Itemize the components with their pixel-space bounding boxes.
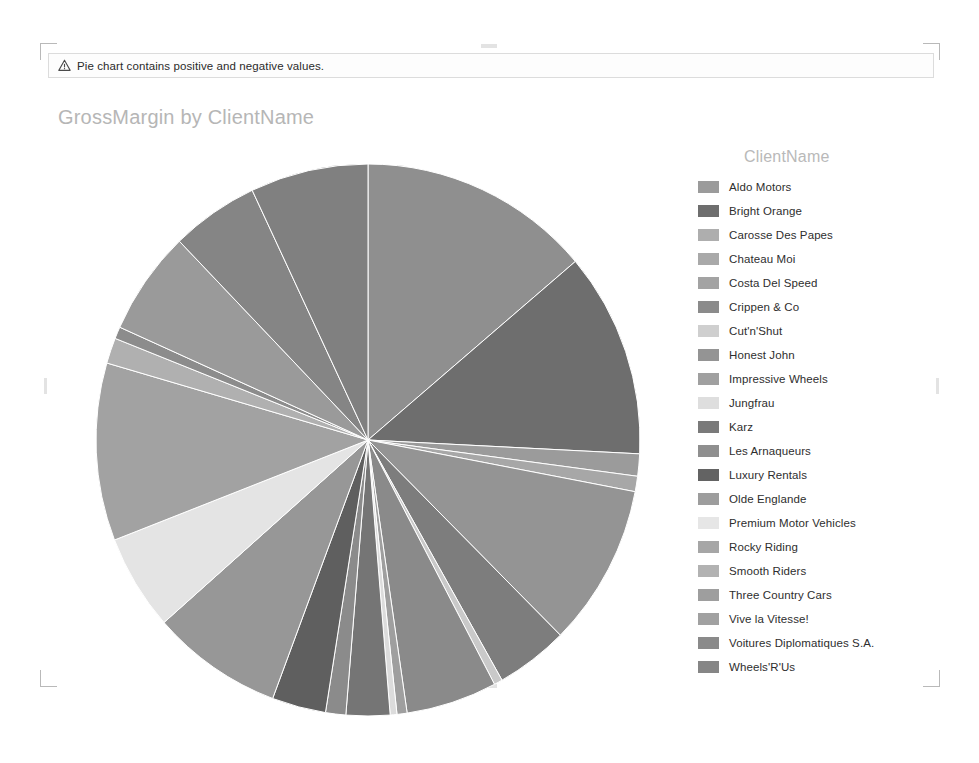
legend-item[interactable]: Carosse Des Papes <box>698 223 948 247</box>
legend-item-label: Wheels'R'Us <box>729 661 795 673</box>
legend-item-label: Premium Motor Vehicles <box>729 517 856 529</box>
legend-item-label: Carosse Des Papes <box>729 229 833 241</box>
legend-swatch <box>698 421 719 433</box>
legend-item[interactable]: Bright Orange <box>698 199 948 223</box>
legend-item-label: Les Arnaqueurs <box>729 445 811 457</box>
legend-swatch <box>698 277 719 289</box>
legend-item-label: Aldo Motors <box>729 181 791 193</box>
legend-swatch <box>698 229 719 241</box>
legend-item[interactable]: Rocky Riding <box>698 535 948 559</box>
legend-item[interactable]: Impressive Wheels <box>698 367 948 391</box>
legend-swatch <box>698 589 719 601</box>
pie-chart[interactable] <box>88 155 658 730</box>
legend-swatch <box>698 349 719 361</box>
legend-swatch <box>698 253 719 265</box>
legend-item-label: Vive la Vitesse! <box>729 613 809 625</box>
legend-item-label: Impressive Wheels <box>729 373 828 385</box>
legend-item[interactable]: Luxury Rentals <box>698 463 948 487</box>
legend-item[interactable]: Jungfrau <box>698 391 948 415</box>
selection-corner-bottom-left[interactable] <box>40 670 57 687</box>
warning-message: Pie chart contains positive and negative… <box>77 60 324 72</box>
legend-swatch <box>698 373 719 385</box>
legend-item-label: Smooth Riders <box>729 565 806 577</box>
legend-item[interactable]: Costa Del Speed <box>698 271 948 295</box>
legend-swatch <box>698 397 719 409</box>
resize-handle-top[interactable] <box>481 44 497 48</box>
legend-item-label: Jungfrau <box>729 397 775 409</box>
legend-item[interactable]: Les Arnaqueurs <box>698 439 948 463</box>
legend-title: ClientName <box>744 148 948 166</box>
pie-slice-group[interactable] <box>96 164 640 716</box>
warning-triangle-icon <box>58 59 71 72</box>
legend[interactable]: ClientName Aldo MotorsBright OrangeCaros… <box>698 148 948 679</box>
legend-swatch <box>698 325 719 337</box>
legend-item[interactable]: Honest John <box>698 343 948 367</box>
pie-chart-svg[interactable] <box>88 155 658 730</box>
legend-swatch <box>698 493 719 505</box>
legend-item-label: Luxury Rentals <box>729 469 807 481</box>
legend-item[interactable]: Wheels'R'Us <box>698 655 948 679</box>
legend-item-label: Honest John <box>729 349 795 361</box>
legend-item-label: Three Country Cars <box>729 589 832 601</box>
page-title: GrossMargin by ClientName <box>58 106 314 129</box>
legend-item-label: Chateau Moi <box>729 253 795 265</box>
legend-item[interactable]: Crippen & Co <box>698 295 948 319</box>
legend-swatch <box>698 661 719 673</box>
legend-item-label: Olde Englande <box>729 493 806 505</box>
legend-item[interactable]: Three Country Cars <box>698 583 948 607</box>
legend-swatch <box>698 181 719 193</box>
resize-handle-left[interactable] <box>44 378 47 394</box>
legend-swatch <box>698 445 719 457</box>
legend-item-label: Rocky Riding <box>729 541 798 553</box>
legend-swatch <box>698 613 719 625</box>
legend-item[interactable]: Karz <box>698 415 948 439</box>
legend-item[interactable]: Premium Motor Vehicles <box>698 511 948 535</box>
legend-item[interactable]: Cut'n'Shut <box>698 319 948 343</box>
legend-swatch <box>698 301 719 313</box>
legend-item[interactable]: Aldo Motors <box>698 175 948 199</box>
warning-banner: Pie chart contains positive and negative… <box>48 53 934 78</box>
legend-item-label: Karz <box>729 421 753 433</box>
legend-item-label: Crippen & Co <box>729 301 799 313</box>
legend-item[interactable]: Smooth Riders <box>698 559 948 583</box>
legend-swatch <box>698 565 719 577</box>
legend-item[interactable]: Chateau Moi <box>698 247 948 271</box>
legend-swatch <box>698 541 719 553</box>
legend-swatch <box>698 469 719 481</box>
legend-swatch <box>698 637 719 649</box>
legend-item-label: Cut'n'Shut <box>729 325 782 337</box>
legend-item-label: Costa Del Speed <box>729 277 817 289</box>
legend-swatch <box>698 205 719 217</box>
legend-swatch <box>698 517 719 529</box>
legend-item[interactable]: Olde Englande <box>698 487 948 511</box>
legend-item-label: Bright Orange <box>729 205 802 217</box>
legend-item[interactable]: Voitures Diplomatiques S.A. <box>698 631 948 655</box>
legend-item[interactable]: Vive la Vitesse! <box>698 607 948 631</box>
legend-item-label: Voitures Diplomatiques S.A. <box>729 637 874 649</box>
legend-item-list[interactable]: Aldo MotorsBright OrangeCarosse Des Pape… <box>698 175 948 679</box>
